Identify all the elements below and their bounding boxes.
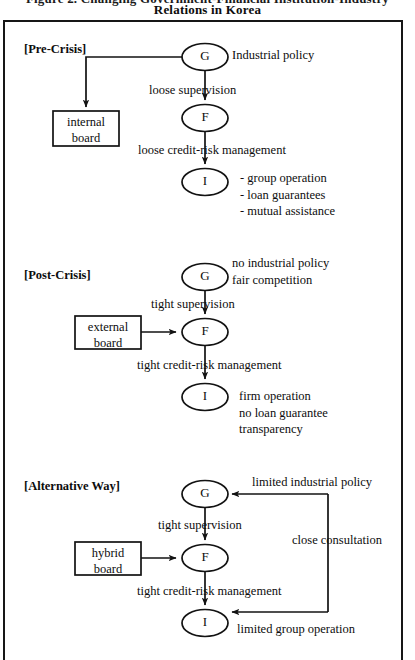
node-g-pre-crisis: G xyxy=(185,48,225,64)
edge-label-tight-supervision-post: tight supervision xyxy=(151,297,235,311)
node-f-alternative: F xyxy=(185,549,225,565)
box-internal-board-line1: internal xyxy=(51,115,121,131)
box-internal-board-line2: board xyxy=(51,131,121,147)
note-loan-guarantees: - loan guarantees xyxy=(240,187,335,204)
note-industrial-policy: Industrial policy xyxy=(232,48,314,62)
note-firm-operation: firm operation xyxy=(239,388,328,405)
edge-label-tight-credit-risk-alt: tight credit-risk management xyxy=(137,584,281,598)
note-transparency: transparency xyxy=(239,421,328,438)
node-i-pre-crisis: I xyxy=(185,173,225,189)
section-label-post-crisis: [Post-Crisis] xyxy=(24,268,91,283)
feedback-label-limited-industrial-policy: limited industrial policy xyxy=(252,475,372,489)
edge-label-loose-supervision: loose supervision xyxy=(149,83,236,97)
box-external-board-line1: external xyxy=(73,320,143,336)
box-internal-board: internal board xyxy=(51,115,121,146)
node-i-alternative: I xyxy=(185,614,225,630)
edge-label-tight-credit-risk-post: tight credit-risk management xyxy=(137,358,281,372)
section-label-pre-crisis: [Pre-Crisis] xyxy=(24,42,86,57)
note-no-loan-guarantee: no loan guarantee xyxy=(239,405,328,422)
box-external-board-line2: board xyxy=(73,336,143,352)
node-f-pre-crisis: F xyxy=(185,109,225,125)
box-hybrid-board: hybrid board xyxy=(73,546,143,577)
notes-post-crisis-government: no industrial policy fair competition xyxy=(232,255,329,288)
note-limited-group-operation: limited group operation xyxy=(237,622,355,636)
box-hybrid-board-line1: hybrid xyxy=(73,546,143,562)
section-label-alternative-way: [Alternative Way] xyxy=(24,479,120,494)
node-i-post-crisis: I xyxy=(185,388,225,404)
notes-pre-crisis-industry: - group operation - loan guarantees - mu… xyxy=(240,170,335,220)
note-group-operation: - group operation xyxy=(240,170,335,187)
node-f-post-crisis: F xyxy=(185,323,225,339)
box-external-board: external board xyxy=(73,320,143,351)
box-hybrid-board-line2: board xyxy=(73,562,143,578)
edge-label-loose-credit-risk: loose credit-risk management xyxy=(138,143,286,157)
node-g-post-crisis: G xyxy=(185,268,225,284)
notes-post-crisis-industry: firm operation no loan guarantee transpa… xyxy=(239,388,328,438)
note-fair-competition: fair competition xyxy=(232,272,329,289)
edge-label-tight-supervision-alt: tight supervision xyxy=(158,518,242,532)
node-g-alternative: G xyxy=(185,485,225,501)
feedback-label-close-consultation: close consultation xyxy=(292,533,382,547)
note-mutual-assistance: - mutual assistance xyxy=(240,203,335,220)
note-no-industrial-policy: no industrial policy xyxy=(232,255,329,272)
